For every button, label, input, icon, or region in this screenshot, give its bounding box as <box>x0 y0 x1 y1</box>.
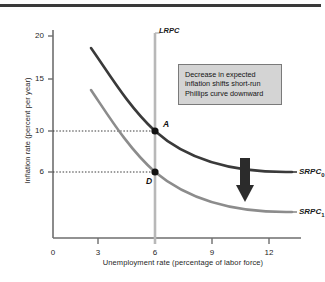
srpc0-label-text: SRPC <box>299 167 321 176</box>
point-label-a: A <box>163 119 169 129</box>
shift-arrow-icon <box>236 158 254 202</box>
srpc1-label: SRPC1 <box>299 207 325 218</box>
srpc0-label-sub: 0 <box>321 172 324 178</box>
lrpc-label: LRPC <box>159 26 179 35</box>
curve-srpc1 <box>91 90 292 212</box>
y-tick-label-15: 15 <box>24 74 44 83</box>
x-tick-label-9: 9 <box>202 248 222 257</box>
point-label-d: D <box>146 176 152 186</box>
srpc1-label-sub: 1 <box>321 212 324 218</box>
x-tick-label-12: 12 <box>259 248 279 257</box>
data-point-a <box>151 127 158 134</box>
srpc0-label: SRPC0 <box>299 167 325 178</box>
callout-line-3: Phillips curve downward <box>185 89 275 98</box>
x-tick-label-0: 0 <box>43 248 63 257</box>
x-tick-label-6: 6 <box>145 248 165 257</box>
x-tick-label-3: 3 <box>88 248 108 257</box>
srpc1-label-text: SRPC <box>299 207 321 216</box>
y-tick-label-6: 6 <box>24 167 44 176</box>
callout-line-2: inflation shifts short-run <box>185 79 275 88</box>
callout-annotation: Decrease in expected inflation shifts sh… <box>178 64 282 105</box>
y-tick-label-10: 10 <box>24 126 44 135</box>
x-axis-title: Unemployment rate (percentage of labor f… <box>58 258 308 267</box>
callout-line-1: Decrease in expected <box>185 70 275 79</box>
data-point-d <box>151 168 158 175</box>
y-tick-label-20: 20 <box>24 31 44 40</box>
